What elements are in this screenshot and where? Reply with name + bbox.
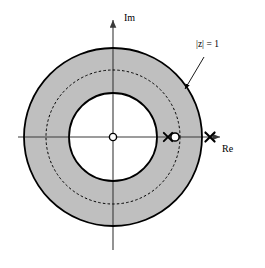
roc-diagram-svg: [0, 0, 265, 268]
real-axis-label: Re: [222, 144, 233, 154]
imaginary-axis-label: Im: [124, 13, 135, 23]
region-of-convergence-shading: [0, 0, 265, 268]
unit-circle-annotation-label: |z| = 1: [196, 40, 219, 50]
z-plane-roc-figure: Im Re |z| = 1: [0, 0, 265, 268]
zero-inner-marker: [171, 133, 179, 141]
zero-at-origin-marker: [109, 133, 116, 140]
